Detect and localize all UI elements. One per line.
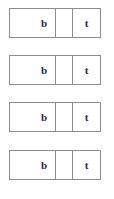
cell-label: t [85,111,89,123]
cell-label: t [85,159,89,171]
table-cell-left: b [10,9,56,37]
cell-label: t [85,64,89,76]
table-cell-middle [56,151,73,179]
table-cell-left: b [10,56,56,84]
table-cell-right: t [73,56,100,84]
table-cell-left: b [10,103,56,131]
table-cell-middle [56,9,73,37]
table-cell-middle [56,56,73,84]
table-cell-right: t [73,151,100,179]
cell-label: b [41,17,47,29]
table-cell-right: t [73,103,100,131]
cell-label: b [41,64,47,76]
cell-label: t [85,17,89,29]
table-row: b t [9,102,101,132]
table-row: b t [9,150,101,180]
table-cell-right: t [73,9,100,37]
cell-label: b [41,111,47,123]
table-cell-left: b [10,151,56,179]
table-row: b t [9,55,101,85]
table-row: b t [9,8,101,38]
cell-label: b [41,159,47,171]
table-stack: b t b t b t b [0,0,114,199]
table-cell-middle [56,103,73,131]
